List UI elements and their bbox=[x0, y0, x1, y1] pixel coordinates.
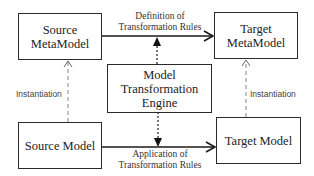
instantiation-right-arrow bbox=[242, 60, 250, 117]
target-metamodel-line1: Target bbox=[227, 22, 285, 36]
source-model-node: Source Model bbox=[18, 122, 102, 169]
engine-line3: Engine bbox=[121, 96, 198, 110]
source-model-label: Source Model bbox=[25, 139, 95, 153]
target-model-node: Target Model bbox=[216, 117, 301, 164]
target-metamodel-node: Target MetaModel bbox=[214, 12, 298, 59]
source-metamodel-line1: Source bbox=[31, 23, 89, 37]
instantiation-left-arrow bbox=[64, 61, 72, 122]
transformation-engine-node: Model Transformation Engine bbox=[107, 64, 212, 113]
application-label-line1: Application of bbox=[110, 149, 210, 160]
definition-label-line1: Definition of bbox=[110, 11, 210, 22]
engine-line2: Transformation bbox=[121, 82, 198, 96]
source-metamodel-line2: MetaModel bbox=[31, 37, 89, 51]
source-metamodel-node: Source MetaModel bbox=[18, 13, 102, 60]
diagram-canvas: Source MetaModel Target MetaModel Model … bbox=[0, 0, 314, 176]
definition-label-line2: Transformation Rules bbox=[110, 22, 210, 33]
target-model-label: Target Model bbox=[225, 134, 292, 148]
instantiation-left-label: Instantiation bbox=[16, 89, 62, 99]
engine-line1: Model bbox=[121, 68, 198, 82]
instantiation-right-label: Instantiation bbox=[250, 89, 296, 99]
engine-to-definition-arrow bbox=[153, 37, 161, 64]
engine-to-application-arrow bbox=[154, 112, 162, 147]
definition-label: Definition of Transformation Rules bbox=[110, 11, 210, 33]
application-label-line2: Transformation Rules bbox=[110, 160, 210, 171]
target-metamodel-line2: MetaModel bbox=[227, 36, 285, 50]
application-label: Application of Transformation Rules bbox=[110, 149, 210, 171]
